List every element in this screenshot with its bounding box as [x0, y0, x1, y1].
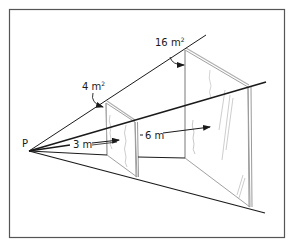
far-distance-label: 6 m — [145, 130, 164, 141]
large-area-callout-arrow — [170, 57, 184, 65]
inverse-square-diagram: P 4 m2 16 m2 3 m 6 m — [0, 0, 294, 246]
point-label: P — [22, 138, 28, 149]
large-panel — [185, 48, 252, 207]
small-area-callout-arrow — [92, 93, 103, 107]
large-area-label: 16 m2 — [155, 36, 185, 48]
near-distance-label: 3 m — [73, 139, 92, 150]
small-area-label: 4 m2 — [82, 80, 105, 92]
small-panel — [106, 101, 139, 177]
near-distance-arrow — [29, 145, 70, 151]
